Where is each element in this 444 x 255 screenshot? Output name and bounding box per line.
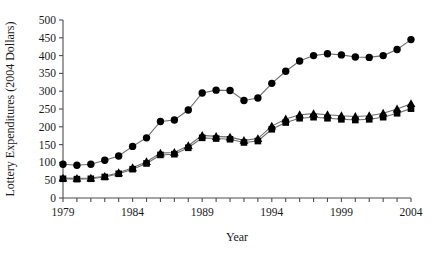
x-tick-label: 1994 xyxy=(260,206,283,218)
data-point-square xyxy=(213,135,220,142)
data-point-circle xyxy=(199,89,206,96)
data-point-circle xyxy=(268,80,275,87)
y-tick-label: 350 xyxy=(39,67,57,79)
data-point-circle xyxy=(407,36,414,43)
data-point-square xyxy=(269,126,276,133)
y-tick-label: 50 xyxy=(45,174,57,186)
chart-canvas: 050100150200250300350400450500 197919841… xyxy=(0,0,444,255)
data-point-square xyxy=(310,114,317,121)
data-point-circle xyxy=(254,94,261,101)
data-point-square xyxy=(171,151,178,158)
data-point-square xyxy=(408,105,415,112)
x-axis-title: Year xyxy=(226,230,248,244)
y-tick-label: 200 xyxy=(39,121,57,133)
data-point-square xyxy=(101,174,108,181)
data-point-circle xyxy=(393,46,400,53)
data-point-square xyxy=(88,175,95,182)
x-tick-label: 1999 xyxy=(330,206,353,218)
data-point-square xyxy=(241,139,248,146)
data-point-circle xyxy=(296,57,303,64)
y-tick-label: 500 xyxy=(39,14,57,26)
data-point-circle xyxy=(185,106,192,113)
x-tick-label: 2004 xyxy=(400,206,423,218)
y-tick-label: 100 xyxy=(39,156,57,168)
data-point-square xyxy=(324,115,331,122)
data-point-circle xyxy=(143,134,150,141)
data-point-circle xyxy=(212,86,219,93)
y-axis-title: Lottery Expenditures (2004 Dollars) xyxy=(3,22,17,197)
data-point-square xyxy=(143,160,150,167)
x-tick-label: 1984 xyxy=(121,206,144,218)
data-point-circle xyxy=(73,162,80,169)
data-point-circle xyxy=(366,54,373,61)
data-point-circle xyxy=(379,52,386,59)
data-point-square xyxy=(366,116,373,123)
data-point-circle xyxy=(240,97,247,104)
data-point-circle xyxy=(352,53,359,60)
x-axis-ticks xyxy=(63,198,411,202)
lottery-expenditures-chart: 050100150200250300350400450500 197919841… xyxy=(0,0,444,255)
y-tick-label: 150 xyxy=(39,139,57,151)
data-point-circle xyxy=(59,160,66,167)
x-axis-tick-labels: 197919841989199419992004 xyxy=(52,206,423,218)
data-point-square xyxy=(129,166,136,173)
data-point-square xyxy=(185,145,192,152)
axes-group xyxy=(63,20,411,198)
data-point-circle xyxy=(157,118,164,125)
y-tick-label: 300 xyxy=(39,85,57,97)
data-point-circle xyxy=(338,51,345,58)
data-point-circle xyxy=(171,116,178,123)
y-tick-label: 250 xyxy=(39,103,57,115)
x-tick-label: 1989 xyxy=(191,206,214,218)
data-point-circle xyxy=(101,157,108,164)
y-axis-ticks xyxy=(59,20,63,198)
data-point-square xyxy=(380,114,387,121)
data-point-square xyxy=(157,152,164,159)
data-point-square xyxy=(296,115,303,122)
x-tick-label: 1979 xyxy=(52,206,75,218)
data-point-circle xyxy=(129,143,136,150)
data-point-circle xyxy=(324,50,331,57)
data-point-circle xyxy=(282,68,289,75)
data-point-square xyxy=(60,175,67,182)
data-point-circle xyxy=(87,160,94,167)
series-square xyxy=(60,105,415,182)
data-point-square xyxy=(282,119,289,126)
data-series-layer xyxy=(59,36,416,183)
series-line xyxy=(63,40,411,166)
data-point-square xyxy=(199,135,206,142)
data-point-square xyxy=(394,110,401,117)
y-tick-label: 400 xyxy=(39,50,57,62)
data-point-square xyxy=(352,117,359,124)
y-tick-label: 0 xyxy=(50,192,56,204)
data-point-circle xyxy=(310,52,317,59)
data-point-square xyxy=(338,116,345,123)
y-tick-label: 450 xyxy=(39,32,57,44)
y-axis-tick-labels: 050100150200250300350400450500 xyxy=(39,14,57,204)
data-point-circle xyxy=(115,152,122,159)
data-point-circle xyxy=(226,87,233,94)
data-point-square xyxy=(255,138,262,145)
data-point-square xyxy=(74,176,81,183)
series-circle xyxy=(59,36,414,169)
data-point-square xyxy=(227,136,234,143)
data-point-square xyxy=(115,170,122,177)
